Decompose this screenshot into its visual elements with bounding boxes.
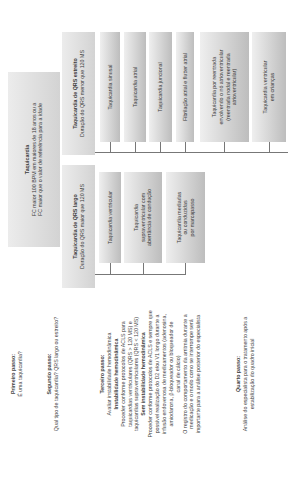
child-text: Taquicardia ventricular — [262, 61, 269, 114]
wide-qrs-box: Taquicardia de QRS largo Duração do QRS … — [62, 165, 95, 288]
step-4-line: estabilização do quadro inicial — [249, 260, 256, 488]
narrow-child-sinusal: Taquicardia sinusal — [100, 32, 120, 142]
narrow-child-juncional: Taquicardia juncional — [149, 32, 172, 142]
connector — [110, 263, 111, 275]
narrow-qrs-subtitle: Duração do QRS menor que 120 MS — [79, 50, 86, 137]
child-text: envolvendo o nó atrioventricular — [218, 49, 225, 124]
wide-qrs-title: Taquicardia de QRS largo — [72, 194, 79, 258]
step-2: Segundo passo: Qual tipo de taquicardia?… — [46, 260, 60, 488]
connector — [143, 263, 144, 275]
step-2-title: Segundo passo: — [46, 260, 53, 488]
child-text: atrioventricular) — [231, 69, 238, 106]
unstable-line: taquicardias ventriculares (QRS > 120 MS… — [127, 260, 134, 488]
step-3-title: Terceiro passo: — [99, 260, 106, 488]
root-line: FC maior 100 BPM em maiores de 18 anos o… — [31, 103, 38, 217]
unstable-line: taquicardias supraventriculares (QRS < 1… — [133, 260, 140, 488]
child-text: Taquicardia ventricular — [107, 191, 114, 244]
unstable-title: Instabilidade hemodinâmica — [113, 260, 120, 488]
connector — [224, 142, 225, 153]
stable-title: Sem instabilidade hemodinâmica — [140, 260, 147, 488]
child-text: (reentrada nodal e reentrada — [225, 53, 232, 120]
stable-line: infusão endovenosa de medicamentos (aden… — [161, 260, 168, 488]
narrow-child-atrial: Taquicardia atrial — [124, 32, 146, 142]
child-text: aberrância de condução — [146, 189, 153, 246]
wide-qrs-subtitle: Duração do QRS maior que 120 MS — [79, 184, 86, 269]
connector — [185, 142, 186, 153]
narrow-connector-trunk — [95, 152, 288, 153]
stable-line: Proceder conforme protocolos de ACLS e s… — [147, 260, 154, 488]
step-4-title: Quarto passo: — [235, 260, 242, 488]
child-text: ou conduzidas — [182, 200, 189, 234]
child-text: Taquicardia — [133, 204, 140, 231]
step-3: Terceiro passo: Avaliar instabilidade he… — [99, 260, 202, 488]
child-text: Taquicardia sinusal — [107, 64, 114, 109]
step-2-text: Qual tipo de taquicardia? QRS largo ou e… — [53, 260, 60, 488]
child-text: Fibrilação atrial e flutter atrial — [182, 53, 189, 121]
wide-child-supraventricular: Taquicardia supraventricular com aberrân… — [124, 172, 162, 263]
step-1-title: Primeiro passo: — [10, 260, 17, 488]
narrow-child-fibrilacao: Fibrilação atrial e flutter atrial — [176, 32, 194, 142]
child-text: Taquicardia por reentrada — [211, 57, 218, 117]
child-text: por marcapasso — [189, 199, 196, 237]
connector — [135, 142, 136, 153]
connector — [269, 142, 270, 153]
stable-line: O registro do comportamento da arritmia … — [182, 260, 189, 488]
stable-line: possível realização do D2 e/ou V1 longo … — [154, 260, 161, 488]
narrow-qrs-title: Taquicardia de QRS estreito — [72, 58, 79, 129]
step-1-text: É uma taquicardia? — [17, 260, 24, 488]
step-4-line: Análise do especialista para o tratament… — [242, 260, 249, 488]
wide-child-ventricular: Taquicardia ventricular — [99, 172, 121, 263]
child-text: em crianças — [269, 73, 276, 102]
steps-panel: Primeiro passo: É uma taquicardia? Segun… — [0, 260, 290, 488]
connector — [185, 263, 186, 275]
narrow-qrs-box: Taquicardia de QRS estreito Duração do Q… — [62, 32, 95, 155]
child-text: Taquicardia juncional — [157, 62, 164, 111]
connector — [160, 142, 161, 153]
stable-line: importante para a análise posterior do e… — [195, 260, 202, 488]
stable-line: canal de cálcio) — [175, 260, 182, 488]
wide-connector-trunk — [95, 274, 186, 275]
root-box-taquicardia: Taquicardia FC maior 100 BPM em maiores … — [8, 72, 60, 247]
root-line: FC maior que o valor de referência para … — [37, 103, 44, 216]
stable-line: medicação e o modo como se interrompe se… — [188, 260, 195, 488]
step-4: Quarto passo: Análise do especialista pa… — [235, 260, 256, 488]
child-text: Taquicardia mediadas — [176, 192, 183, 244]
wide-child-marcapasso: Taquicardia mediadas ou conduzidas por m… — [166, 172, 205, 263]
connector — [110, 142, 111, 153]
narrow-child-reentrada: Taquicardia por reentrada envolvendo o n… — [200, 32, 249, 142]
narrow-child-criancas: Taquicardia ventricular em crianças — [252, 32, 286, 142]
step-3-text: Avaliar instabilidade hemodinâmica — [106, 260, 113, 488]
unstable-line: Proceder conforme protocolos de ACLS par… — [120, 260, 127, 488]
root-title: Taquicardia — [24, 145, 31, 174]
child-text: Taquicardia atrial — [132, 67, 139, 107]
step-1: Primeiro passo: É uma taquicardia? — [10, 260, 24, 488]
tachycardia-flowchart: Primeiro passo: É uma taquicardia? Segun… — [0, 0, 290, 488]
stable-line: amiodarona, β-bloqueador ou bloqueador d… — [168, 260, 175, 488]
child-text: supraventricular com — [140, 193, 147, 242]
